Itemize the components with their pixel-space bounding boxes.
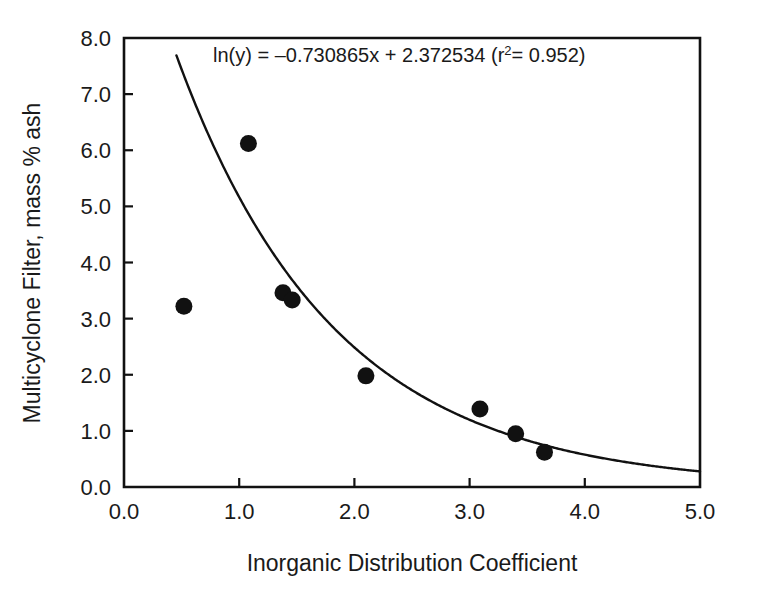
y-axis-tick-labels: 0.01.02.03.04.05.06.07.08.0	[80, 26, 111, 500]
y-tick-label: 8.0	[80, 26, 111, 51]
y-tick-label: 2.0	[80, 363, 111, 388]
x-axis-title: Inorganic Distribution Coefficient	[247, 550, 578, 576]
x-tick-label: 2.0	[339, 499, 370, 524]
data-point	[357, 367, 374, 384]
y-tick-label: 1.0	[80, 419, 111, 444]
y-tick-label: 0.0	[80, 475, 111, 500]
x-tick-label: 1.0	[224, 499, 255, 524]
data-point	[536, 444, 553, 461]
y-axis-title: Multicyclone Filter, mass % ash	[19, 103, 45, 424]
x-tick-label: 5.0	[685, 499, 716, 524]
data-point	[240, 135, 257, 152]
data-point	[175, 298, 192, 315]
y-tick-label: 5.0	[80, 194, 111, 219]
y-tick-label: 3.0	[80, 307, 111, 332]
data-point	[507, 425, 524, 442]
y-tick-label: 4.0	[80, 251, 111, 276]
regression-equation-annotation: ln(y) = –0.730865x + 2.372534 (r2= 0.952…	[213, 43, 586, 66]
y-tick-label: 7.0	[80, 82, 111, 107]
scatter-plot: 0.01.02.03.04.05.0 0.01.02.03.04.05.06.0…	[0, 0, 783, 601]
x-tick-label: 0.0	[109, 499, 140, 524]
data-point	[471, 400, 488, 417]
x-tick-label: 4.0	[570, 499, 601, 524]
data-point	[284, 292, 301, 309]
y-tick-label: 6.0	[80, 138, 111, 163]
x-tick-label: 3.0	[454, 499, 485, 524]
chart-figure: 0.01.02.03.04.05.0 0.01.02.03.04.05.06.0…	[0, 0, 783, 601]
